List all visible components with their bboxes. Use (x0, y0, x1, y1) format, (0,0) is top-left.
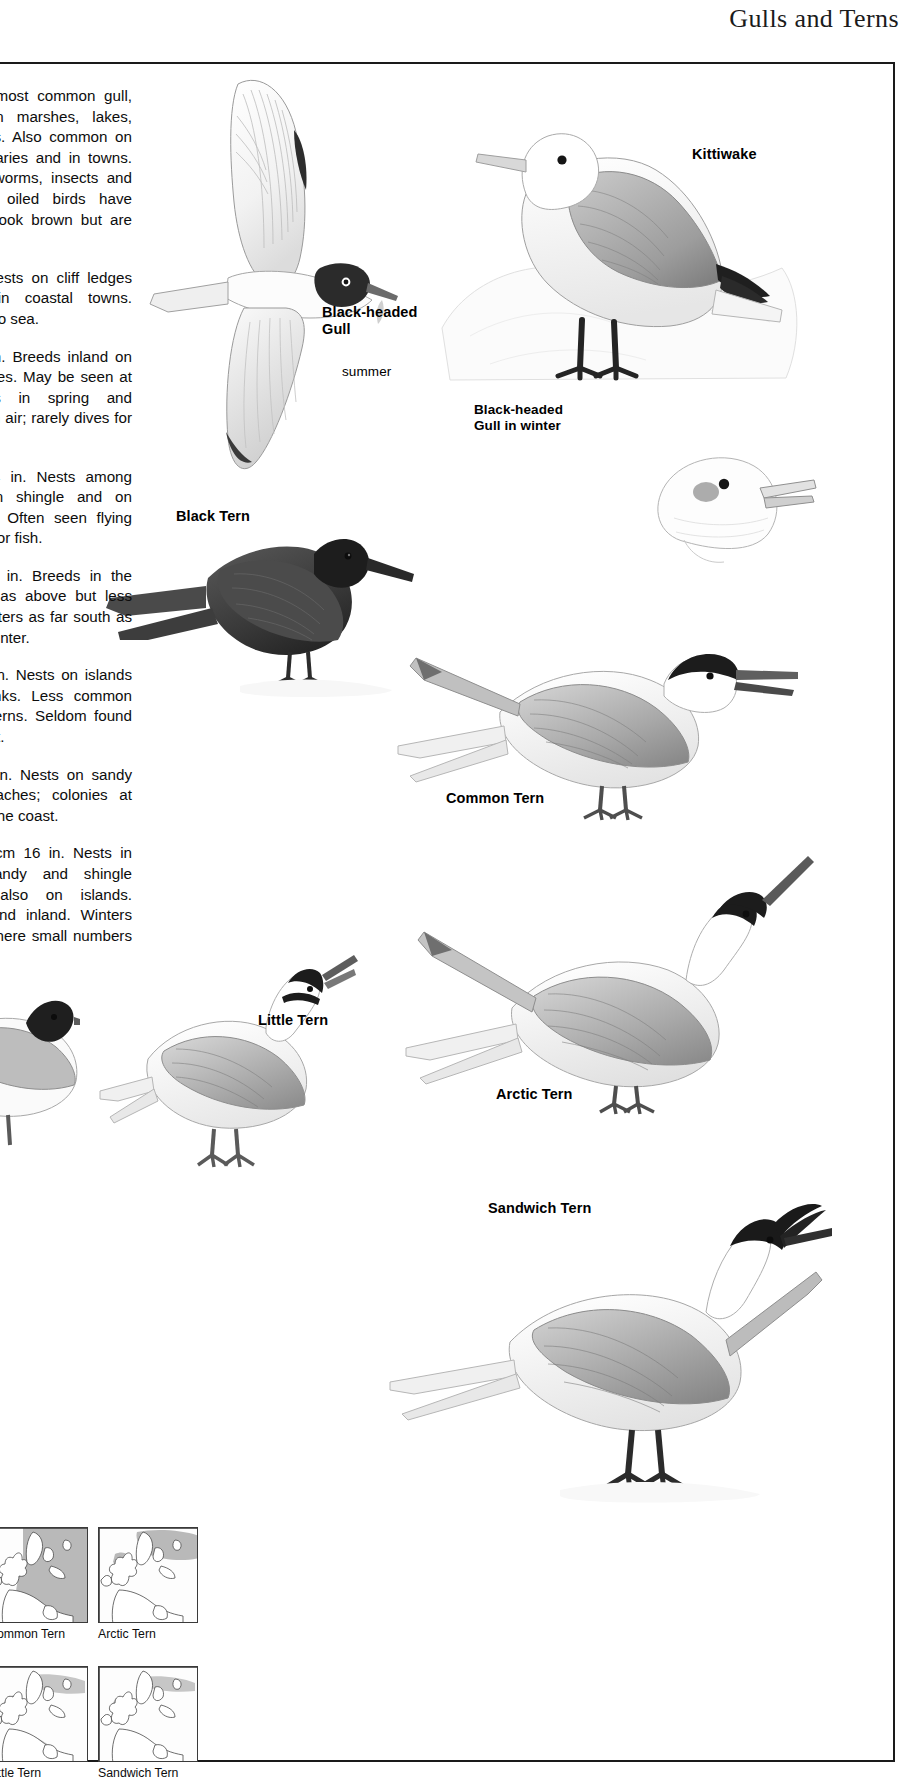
page-border (0, 62, 895, 1762)
species-paragraph: andvicensis 41 cm 16 in. Nests in coloni… (0, 843, 132, 967)
map-cell-sandwich-tern: Sandwich Tern (98, 1666, 198, 1780)
species-paragraph: gallii 38 cm 15 in. Nests on islands and… (0, 665, 132, 747)
kittiwake-illustration (430, 78, 830, 408)
map-cell-little-tern: Little Tern (0, 1666, 88, 1780)
species-text-column: ridibundus The most common gull, found i… (0, 86, 132, 984)
black-tern-illustration (100, 500, 430, 700)
arctic-tern-illustration (390, 840, 820, 1130)
species-description: The most common gull, found inland on ma… (0, 87, 132, 248)
species-description: 38 cm 15 in. Nests on islands and shingl… (0, 666, 132, 745)
sandwich-tern-illustration (370, 1190, 840, 1520)
map-caption: Arctic Tern (98, 1623, 198, 1642)
label-arctic-tern: Arctic Tern (496, 1086, 573, 1103)
common-tern-illustration (380, 600, 810, 830)
map-cell-arctic-tern: Arctic Tern (98, 1527, 198, 1642)
species-paragraph: saea 36 cm 14 in. Breeds in the kinds of… (0, 566, 132, 648)
distribution-map-little-tern (0, 1666, 88, 1762)
map-caption: Common Tern (0, 1623, 88, 1642)
distribution-map-sandwich-tern (98, 1666, 198, 1762)
map-row: Little Tern (0, 1666, 220, 1780)
label-black-headed-gull-winter: Black-headed Gull in winter (474, 402, 563, 434)
label-kittiwake: Kittiwake (692, 146, 757, 163)
map-row: Common Tern (0, 1527, 220, 1642)
map-caption: Little Tern (0, 1762, 88, 1780)
black-headed-gull-flying-illustration (110, 72, 440, 472)
distribution-map-common-tern (0, 1527, 88, 1623)
label-sandwich-tern: Sandwich Tern (488, 1200, 591, 1217)
species-paragraph: undo 36 cm 14 in. Nests among sand dunes… (0, 467, 132, 549)
distribution-map-arctic-tern (98, 1527, 198, 1623)
black-headed-gull-winter-illustration (628, 440, 828, 570)
species-description: 24 cm 10 in. Breeds inland on lakes and … (0, 348, 132, 447)
page-title: Gulls and Terns (729, 4, 899, 34)
map-caption: Sandwich Tern (98, 1762, 198, 1780)
species-description: 36 cm 14 in. Breeds in the kinds of plac… (0, 567, 132, 646)
page-header: Gulls and Terns (0, 0, 913, 62)
distribution-maps: Common Tern (0, 1527, 220, 1780)
species-description: 24 cm 9.5 in. Nests on sandy and shingle… (0, 766, 132, 824)
label-black-headed-gull: Black-headed Gull (322, 304, 418, 338)
species-description: 36 cm 14 in. Nests among sand dunes, on … (0, 468, 132, 547)
label-little-tern: Little Tern (258, 1012, 328, 1029)
species-paragraph: ridibundus The most common gull, found i… (0, 86, 132, 251)
label-black-headed-gull-season: summer (342, 363, 391, 380)
species-paragraph: iger 24 cm 10 in. Breeds inland on lakes… (0, 347, 132, 450)
map-cell-common-tern: Common Tern (0, 1527, 88, 1642)
species-paragraph: 41 cm 16 in. Nests on cliff ledges and b… (0, 268, 132, 330)
roseate-tern-partial-illustration (0, 985, 80, 1165)
species-description: 41 cm 16 in. Nests on cliff ledges and b… (0, 269, 132, 327)
little-tern-illustration (96, 955, 376, 1185)
species-paragraph: ons 24 cm 9.5 in. Nests on sandy and shi… (0, 765, 132, 827)
label-black-tern: Black Tern (176, 508, 250, 525)
species-description: 41 cm 16 in. Nests in colonies on sandy … (0, 844, 132, 964)
label-common-tern: Common Tern (446, 790, 544, 807)
